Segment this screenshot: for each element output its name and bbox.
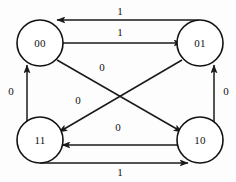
state-node-10[interactable]: 10	[177, 117, 223, 163]
state-node-11-label: 11	[34, 134, 45, 146]
state-node-11[interactable]: 11	[17, 117, 63, 163]
edge-11-to-00: 0	[8, 65, 27, 122]
edge-00-to-01-label: 1	[117, 26, 123, 38]
state-node-00[interactable]: 00	[17, 20, 63, 66]
state-node-01-label: 01	[194, 37, 206, 49]
edge-00-to-10-label: 0	[99, 61, 105, 73]
edge-01-to-00-label: 1	[117, 5, 123, 17]
edge-10-to-01: 0	[214, 65, 229, 122]
edge-11-to-00-label: 0	[8, 85, 14, 97]
edge-01-to-00: 1	[57, 5, 200, 21]
edge-10-to-11: 0	[62, 121, 179, 145]
state-node-10-label: 10	[194, 134, 206, 146]
state-diagram-canvas: 1 1 0 0 0 0 0	[0, 0, 236, 182]
edge-10-to-11-label: 0	[115, 121, 121, 133]
edge-01-to-00-line	[57, 20, 200, 21]
edge-01-to-11-label: 0	[75, 94, 81, 106]
edge-11-to-10-label: 1	[117, 166, 123, 178]
state-node-00-label: 00	[34, 37, 46, 49]
state-node-01[interactable]: 01	[177, 20, 223, 66]
edge-11-to-10: 1	[40, 163, 188, 178]
edge-00-to-01: 1	[61, 26, 182, 43]
edge-10-to-01-label: 0	[223, 85, 229, 97]
state-diagram: 1 1 0 0 0 0 0	[0, 0, 236, 182]
